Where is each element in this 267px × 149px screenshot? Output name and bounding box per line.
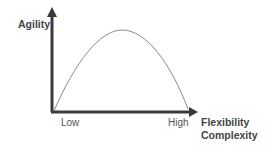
x-axis bbox=[51, 107, 198, 117]
y-axis-label: Agility bbox=[18, 19, 50, 30]
x-tick-low: Low bbox=[61, 118, 79, 128]
agility-curve bbox=[54, 30, 188, 111]
x-axis-label-flexibility: Flexibility bbox=[201, 117, 249, 128]
x-axis-label-complexity: Complexity bbox=[201, 130, 258, 141]
x-axis-arrow-icon bbox=[189, 107, 198, 117]
y-axis-arrow-icon bbox=[47, 7, 57, 17]
x-tick-high: High bbox=[168, 118, 189, 128]
